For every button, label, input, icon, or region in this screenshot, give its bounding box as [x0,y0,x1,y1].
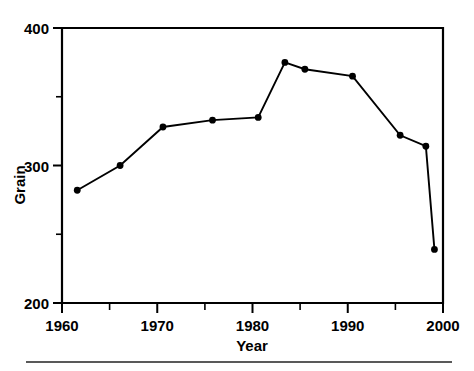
series-markers-grain [74,59,438,253]
x-tick-label-1990: 1990 [331,317,364,334]
y-tick-label-400: 400 [24,20,49,37]
figure-container: 400 300 200 Grain 1960 1970 1980 1990 [0,0,474,371]
data-point [281,59,288,66]
x-tick-label-1960: 1960 [45,317,78,334]
y-axis-title: Grain [11,165,28,204]
data-point [255,114,262,121]
series-line-grain [77,62,434,249]
grain-vs-year-line-chart: 400 300 200 Grain 1960 1970 1980 1990 [0,0,474,371]
data-point [160,124,167,131]
data-point [349,73,356,80]
x-axis-major-ticks [62,303,443,313]
data-point [301,66,308,73]
data-series-grain [74,59,438,253]
data-point [74,187,81,194]
y-tick-label-200: 200 [24,295,49,312]
data-point [209,117,216,124]
data-point [397,132,404,139]
data-point [431,246,438,253]
data-point [117,162,124,169]
x-tick-label-2000: 2000 [426,317,459,334]
data-point [422,143,429,150]
x-axis-tick-labels: 1960 1970 1980 1990 2000 [45,317,459,334]
y-axis-major-ticks [53,28,62,303]
footer-divider [0,352,474,371]
x-tick-label-1970: 1970 [141,317,174,334]
x-tick-label-1980: 1980 [236,317,269,334]
